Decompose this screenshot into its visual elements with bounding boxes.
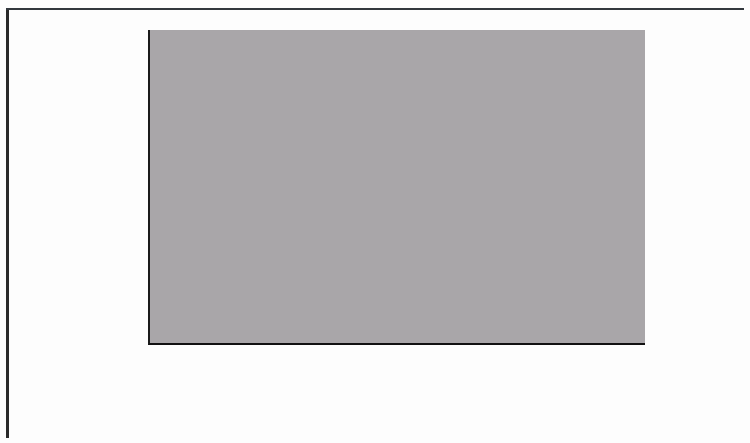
- figure-top-rule: [6, 8, 744, 10]
- figure: [0, 0, 750, 443]
- stacked-area-series: [150, 30, 647, 345]
- legend: [648, 6, 710, 348]
- plot-area: [148, 30, 645, 345]
